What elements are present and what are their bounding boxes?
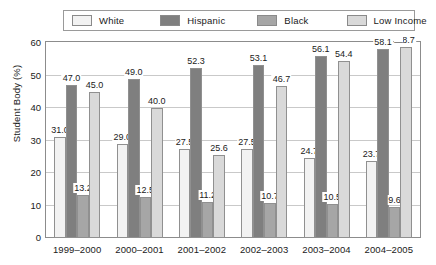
bar — [327, 204, 339, 238]
y-axis-ticks: 6050403020100 — [0, 41, 41, 238]
bar — [202, 202, 214, 238]
bar-value-label: 54.4 — [334, 49, 354, 59]
y-tick-label-60: 60 — [3, 37, 41, 48]
x-tick-label: 2000–2001 — [115, 244, 163, 255]
x-tick-label: 2001–2002 — [178, 244, 226, 255]
bar — [241, 149, 253, 238]
bar-value-label: 25.6 — [209, 143, 229, 153]
chart-screenshot: White Hispanic Black Low Income Student … — [0, 0, 436, 265]
y-tick-label-0: 0 — [3, 232, 41, 243]
bar — [54, 137, 66, 238]
bar — [190, 68, 202, 238]
legend-item-hispanic: Hispanic — [160, 11, 225, 30]
bar — [66, 85, 78, 238]
bar — [117, 144, 129, 238]
bar — [366, 161, 378, 238]
bar — [304, 158, 316, 238]
legend-label-low-income: Low Income — [374, 15, 427, 26]
x-tick-label: 2004–2005 — [365, 244, 413, 255]
bar — [253, 65, 265, 238]
legend-item-black: Black — [257, 11, 308, 30]
bar — [140, 197, 152, 238]
bar-value-label: 40.0 — [147, 96, 167, 106]
bar — [338, 61, 350, 238]
bar-value-label: 45.0 — [85, 80, 105, 90]
bar — [276, 86, 288, 238]
label-overlap-dash: — — [394, 37, 403, 47]
legend-label-black: Black — [284, 15, 308, 26]
legend-item-low-income: Low Income — [347, 11, 427, 30]
legend-swatch-low-income — [347, 15, 367, 26]
x-tick-label: 2003–2004 — [302, 244, 350, 255]
bar-value-label: 49.0 — [124, 67, 144, 77]
bar — [89, 92, 101, 238]
bar — [400, 47, 412, 238]
bar — [179, 149, 191, 238]
bar-value-label: 58.1 — [373, 37, 393, 47]
legend-swatch-hispanic — [160, 15, 180, 26]
y-tick-label-20: 20 — [3, 167, 41, 178]
bar — [315, 56, 327, 238]
bar-value-label: 52.3 — [186, 56, 206, 66]
legend-swatch-white — [72, 15, 92, 26]
bar — [264, 203, 276, 238]
bar-value-label: 56.1 — [311, 44, 331, 54]
y-tick-label-40: 40 — [3, 102, 41, 113]
x-tick-label: 1999–2000 — [53, 244, 101, 255]
y-tick-label-50: 50 — [3, 69, 41, 80]
bar-value-label: 47.0 — [62, 73, 82, 83]
y-tick-label-10: 10 — [3, 199, 41, 210]
chart-legend: White Hispanic Black Low Income — [63, 10, 415, 31]
bar — [213, 155, 225, 238]
bar — [151, 108, 163, 238]
bar — [377, 49, 389, 238]
legend-label-white: White — [99, 15, 124, 26]
bar — [128, 79, 140, 238]
bar-value-label: 46.7 — [272, 74, 292, 84]
legend-item-white: White — [72, 11, 124, 30]
bar — [77, 195, 89, 238]
y-tick-label-30: 30 — [3, 134, 41, 145]
x-tick-label: 2002–2003 — [240, 244, 288, 255]
bar-value-label: 53.1 — [249, 53, 269, 63]
bar — [389, 207, 401, 238]
legend-label-hispanic: Hispanic — [187, 15, 225, 26]
legend-swatch-black — [257, 15, 277, 26]
bars-layer: 31.047.013.245.029.049.012.540.027.552.3… — [46, 42, 420, 238]
